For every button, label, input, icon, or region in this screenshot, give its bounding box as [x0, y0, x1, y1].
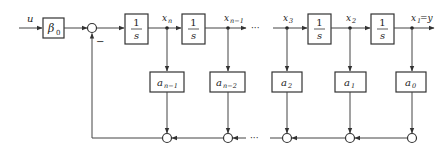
- summing-junction-bottom-1: [163, 134, 172, 143]
- svg-text:a: a: [157, 77, 163, 88]
- block-diagram: u β 0 − 1 s x n 1 s x n−1 ··· x 3 1: [0, 0, 446, 159]
- svg-text:a: a: [405, 77, 411, 88]
- svg-text:s: s: [134, 30, 139, 41]
- summing-junction-bottom-3: [283, 134, 292, 143]
- svg-text:1: 1: [316, 17, 322, 28]
- svg-text:β: β: [47, 22, 54, 35]
- svg-text:0: 0: [56, 29, 60, 37]
- summing-junction-bottom-5: [408, 134, 417, 143]
- gain-block-a1: a 1: [335, 72, 366, 92]
- ellipsis-bottom: ···: [250, 133, 259, 143]
- svg-text:x: x: [346, 13, 351, 23]
- svg-text:n−1: n−1: [164, 82, 178, 90]
- svg-text:2: 2: [287, 82, 292, 90]
- svg-text:1: 1: [133, 17, 139, 28]
- integrator-block-3: 1 s: [308, 14, 331, 44]
- svg-text:2: 2: [351, 17, 356, 25]
- ellipsis-top: ···: [251, 23, 260, 33]
- gain-block-an-2: a n−2: [210, 72, 245, 92]
- svg-text:1: 1: [190, 17, 196, 28]
- input-gain-block: β 0: [43, 18, 64, 38]
- svg-text:x: x: [411, 13, 416, 23]
- svg-text:s: s: [380, 30, 385, 41]
- input-label: u: [27, 13, 33, 24]
- svg-text:x: x: [224, 13, 229, 23]
- gain-block-a0: a 0: [396, 72, 426, 92]
- svg-text:n−1: n−1: [230, 17, 244, 25]
- svg-text:s: s: [191, 30, 196, 41]
- svg-text:a: a: [216, 77, 222, 88]
- integrator-block-1: 1 s: [125, 14, 148, 44]
- svg-text:x: x: [283, 13, 288, 23]
- svg-text:n: n: [168, 17, 172, 25]
- svg-text:a: a: [281, 77, 287, 88]
- integrator-block-2: 1 s: [182, 14, 205, 44]
- svg-text:x: x: [162, 13, 167, 23]
- svg-text:a: a: [344, 77, 350, 88]
- summing-junction-main: [88, 24, 97, 33]
- svg-text:=y: =y: [420, 13, 434, 23]
- svg-text:1: 1: [379, 17, 385, 28]
- summing-junction-bottom-2: [224, 134, 233, 143]
- feedback-sign: −: [96, 36, 104, 47]
- svg-text:1: 1: [351, 82, 355, 90]
- gain-block-a2: a 2: [272, 72, 302, 92]
- svg-text:n−2: n−2: [223, 82, 237, 90]
- summing-junction-bottom-4: [346, 134, 355, 143]
- svg-text:0: 0: [412, 82, 416, 90]
- integrator-block-4: 1 s: [371, 14, 394, 44]
- svg-text:s: s: [317, 30, 322, 41]
- gain-block-an-1: a n−1: [150, 72, 184, 92]
- svg-text:3: 3: [289, 17, 293, 25]
- input-signal: u: [19, 13, 42, 28]
